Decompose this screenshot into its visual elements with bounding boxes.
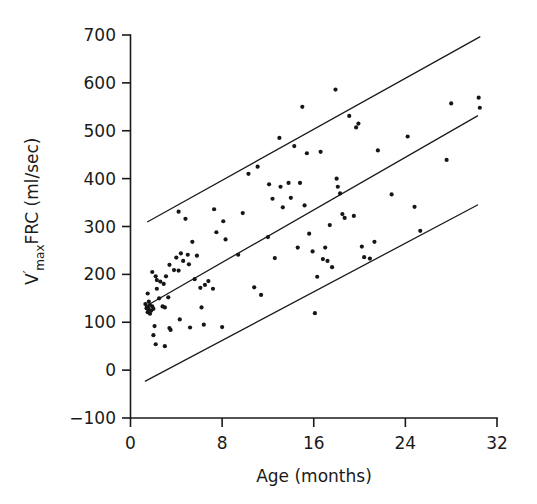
data-point: [311, 249, 315, 253]
data-point: [286, 181, 290, 185]
data-point: [241, 211, 245, 215]
data-point: [181, 259, 185, 263]
data-point: [151, 333, 155, 337]
data-point: [162, 282, 166, 286]
data-point: [174, 256, 178, 260]
data-point: [354, 125, 358, 129]
data-point: [307, 232, 311, 236]
y-axis-title-subscript: max: [33, 244, 47, 270]
data-point: [186, 253, 190, 257]
data-point: [202, 323, 206, 327]
data-point: [151, 307, 155, 311]
data-point: [214, 230, 218, 234]
data-point: [321, 257, 325, 261]
data-point: [211, 287, 215, 291]
data-point: [313, 311, 317, 315]
data-point: [368, 256, 372, 260]
data-point: [160, 304, 164, 308]
data-point: [296, 245, 300, 249]
data-point: [278, 185, 282, 189]
data-point: [221, 219, 225, 223]
trend-lines: [145, 37, 479, 381]
x-tick-label: 8: [217, 433, 228, 453]
data-point: [305, 151, 309, 155]
data-point: [328, 223, 332, 227]
x-tick-label: 16: [303, 433, 325, 453]
data-point: [154, 342, 158, 346]
data-point: [449, 101, 453, 105]
data-point: [206, 279, 210, 283]
data-point: [152, 324, 156, 328]
data-point: [333, 87, 337, 91]
data-point: [360, 245, 364, 249]
data-point: [340, 212, 344, 216]
data-point: [390, 192, 394, 196]
svg-text:V′maxFRC (ml/sec): V′maxFRC (ml/sec): [21, 138, 47, 286]
x-tick-label: 24: [395, 433, 417, 453]
data-point: [266, 235, 270, 239]
lower-limit-line: [145, 205, 477, 381]
data-point: [418, 229, 422, 233]
data-point: [183, 217, 187, 221]
upper-limit-line: [148, 37, 480, 222]
data-point: [172, 268, 176, 272]
data-point: [190, 240, 194, 244]
data-point: [154, 274, 158, 278]
data-point: [144, 306, 148, 310]
y-tick-label: 600: [84, 73, 116, 93]
data-point: [252, 285, 256, 289]
y-tick-label: 0: [105, 360, 116, 380]
data-point: [198, 286, 202, 290]
data-point: [298, 181, 302, 185]
data-point: [323, 245, 327, 249]
data-point: [164, 274, 168, 278]
data-point: [193, 277, 197, 281]
y-tick-label: 300: [84, 217, 116, 237]
data-point: [177, 210, 181, 214]
data-point: [188, 325, 192, 329]
data-point: [246, 172, 250, 176]
y-axis-title-trail: FRC (ml/sec): [22, 138, 42, 245]
data-point: [343, 216, 347, 220]
data-point: [330, 265, 334, 269]
data-point: [179, 251, 183, 255]
data-point: [155, 278, 159, 282]
data-point: [150, 270, 154, 274]
x-axis-ticks: 08162432: [125, 418, 508, 453]
y-tick-label: 200: [84, 264, 116, 284]
data-point: [143, 302, 147, 306]
y-tick-label: −100: [69, 408, 116, 428]
data-point: [273, 256, 277, 260]
data-point: [147, 300, 151, 304]
data-point: [236, 253, 240, 257]
data-point: [412, 205, 416, 209]
y-tick-label: 400: [84, 169, 116, 189]
data-point: [178, 317, 182, 321]
y-axis-title-lead: V: [22, 273, 42, 285]
data-point: [195, 254, 199, 258]
data-point: [281, 205, 285, 209]
data-point: [177, 268, 181, 272]
data-point: [155, 287, 159, 291]
y-tick-label: 500: [84, 121, 116, 141]
x-tick-label: 0: [125, 433, 136, 453]
data-point: [168, 328, 172, 332]
data-point: [267, 182, 271, 186]
data-point: [372, 240, 376, 244]
data-point: [148, 312, 152, 316]
x-tick-label: 32: [486, 433, 508, 453]
data-point: [212, 207, 216, 211]
data-point: [376, 148, 380, 152]
data-point: [256, 165, 260, 169]
data-point: [203, 283, 207, 287]
data-point: [445, 158, 449, 162]
data-point: [220, 325, 224, 329]
scatter-plot-figure: −1000100200300400500600700 08162432 V′ma…: [0, 0, 537, 504]
data-point: [277, 136, 281, 140]
data-point: [347, 114, 351, 118]
data-point: [362, 255, 366, 259]
data-point: [163, 344, 167, 348]
data-point: [319, 150, 323, 154]
data-point: [199, 305, 203, 309]
data-point: [157, 296, 161, 300]
